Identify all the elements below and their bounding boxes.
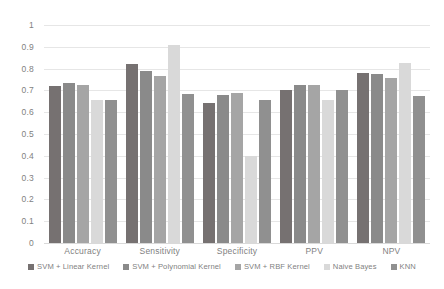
bar [49, 86, 61, 243]
y-axis-tick-label: 0.2 [22, 194, 34, 204]
legend-swatch-icon [391, 264, 397, 270]
bar-group [198, 25, 275, 243]
bar [217, 95, 229, 243]
legend-item[interactable]: SVM + Linear Kernel [28, 262, 109, 271]
bar-group [121, 25, 198, 243]
legend-item[interactable]: Naive Bayes [324, 262, 377, 271]
y-axis-tick-label: 0.3 [22, 173, 34, 183]
bar-groups [44, 25, 430, 243]
y-axis-tick-label: 0.7 [22, 85, 34, 95]
bar [322, 100, 334, 243]
y-axis-tick-label: 0.5 [22, 129, 34, 139]
bar [154, 76, 166, 243]
legend-label: SVM + Linear Kernel [37, 262, 109, 271]
bar [77, 85, 89, 243]
bar-group [44, 25, 121, 243]
bar [280, 90, 292, 243]
bar [91, 100, 103, 243]
bar [63, 83, 75, 243]
bar [259, 100, 271, 243]
bar [336, 90, 348, 243]
bar-chart: 10.90.80.70.60.50.40.30.20.10 AccuracySe… [0, 0, 444, 289]
legend-item[interactable]: KNN [391, 262, 416, 271]
legend-swatch-icon [235, 264, 241, 270]
x-axis-tick-label: Accuracy [44, 246, 121, 256]
y-axis-tick-label: 1 [29, 20, 34, 30]
legend-label: Naive Bayes [333, 262, 377, 271]
bar [203, 103, 215, 243]
y-axis: 10.90.80.70.60.50.40.30.20.10 [0, 25, 40, 243]
legend-swatch-icon [123, 264, 129, 270]
bar [182, 94, 194, 243]
legend-label: KNN [400, 262, 416, 271]
bar-group [353, 25, 430, 243]
y-axis-tick-label: 0.6 [22, 107, 34, 117]
bar [371, 74, 383, 243]
bar [385, 78, 397, 243]
x-axis-tick-label: PPV [276, 246, 353, 256]
y-axis-tick-label: 0.1 [22, 216, 34, 226]
bar [357, 73, 369, 243]
plot-area [44, 25, 430, 243]
bar [308, 85, 320, 243]
bar [231, 93, 243, 243]
y-axis-tick-label: 0.4 [22, 151, 34, 161]
legend: SVM + Linear KernelSVM + Polynomial Kern… [0, 262, 444, 271]
legend-swatch-icon [324, 264, 330, 270]
legend-label: SVM + RBF Kernel [244, 262, 310, 271]
x-axis-tick-label: Sensitivity [121, 246, 198, 256]
bar [140, 71, 152, 243]
bar [294, 85, 306, 243]
legend-item[interactable]: SVM + RBF Kernel [235, 262, 310, 271]
bar [245, 156, 257, 243]
legend-label: SVM + Polynomial Kernel [132, 262, 221, 271]
bar [399, 63, 411, 243]
x-axis-tick-label: NPV [353, 246, 430, 256]
legend-swatch-icon [28, 264, 34, 270]
bar [105, 100, 117, 243]
bar [168, 45, 180, 243]
y-axis-tick-label: 0 [29, 238, 34, 248]
gridline [44, 243, 430, 244]
legend-item[interactable]: SVM + Polynomial Kernel [123, 262, 221, 271]
y-axis-tick-label: 0.8 [22, 64, 34, 74]
bar [413, 96, 425, 243]
x-axis-labels: AccuracySensitivitySpecificityPPVNPV [44, 246, 430, 256]
x-axis-tick-label: Specificity [198, 246, 275, 256]
bar-group [276, 25, 353, 243]
y-axis-tick-label: 0.9 [22, 42, 34, 52]
bar [126, 64, 138, 243]
